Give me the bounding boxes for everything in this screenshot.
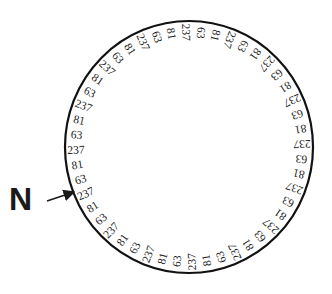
ring-number: 63 [195, 27, 208, 40]
ring-number: 237 [140, 244, 157, 265]
ring-number: 237 [221, 30, 238, 51]
ring-number: 63 [280, 194, 296, 210]
ring-number: 63 [235, 38, 251, 54]
ring-number: 63 [213, 250, 228, 265]
diagram: 2376381237638123763812376381237638123763… [0, 0, 332, 294]
ring-number: 81 [199, 254, 213, 268]
north-label: N [9, 183, 32, 215]
ring-number: 63 [150, 30, 165, 45]
ring-number: 63 [170, 255, 183, 268]
ring-number: 81 [294, 123, 308, 137]
number-ring: 2376381237638123763812376381237638123763… [67, 23, 311, 270]
ring-number: 237 [67, 143, 85, 156]
ring-number: 63 [73, 172, 88, 187]
ring-number: 81 [292, 167, 306, 181]
circle-diagram: 2376381237638123763812376381237638123763… [0, 0, 332, 294]
ring-number: 63 [295, 153, 308, 166]
ring-number: 63 [290, 107, 305, 122]
ring-number: 63 [127, 240, 143, 256]
ring-number: 81 [72, 113, 86, 127]
ring-number: 81 [165, 27, 179, 41]
ring-number: 237 [284, 180, 305, 197]
ring-number: 81 [272, 206, 289, 223]
ring-number: 237 [293, 138, 311, 151]
circle-outline [65, 21, 313, 273]
arrow-icon [47, 192, 74, 201]
ring-number: 237 [185, 253, 198, 271]
ring-number: 237 [73, 97, 94, 114]
ring-number: 63 [70, 128, 83, 141]
ring-number: 63 [82, 84, 98, 100]
ring-number: 81 [209, 28, 223, 42]
ring-number: 81 [155, 251, 169, 265]
ring-number: 237 [180, 23, 193, 41]
ring-number: 81 [90, 71, 107, 88]
ring-number: 81 [71, 158, 85, 172]
